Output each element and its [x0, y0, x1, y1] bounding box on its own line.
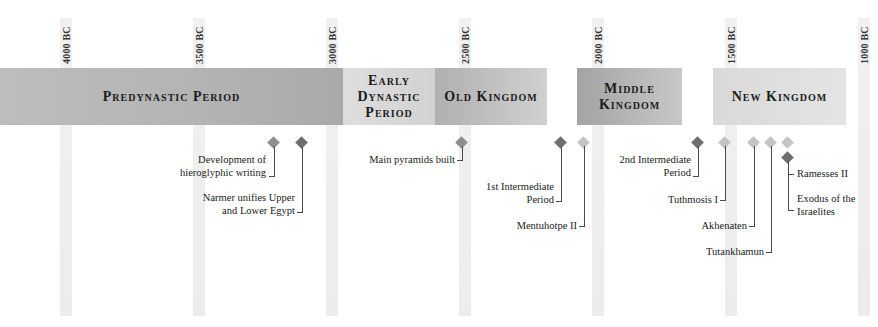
period-label: Predynastic Period: [103, 89, 241, 105]
event-connector-tick: [788, 210, 794, 211]
year-label-1500bc: 1500 BC: [724, 18, 738, 64]
event-label: Development of hieroglyphic writing: [180, 153, 266, 179]
event-connector-tick: [556, 201, 562, 202]
event-label: 2nd Intermediate Period: [620, 153, 691, 179]
event-label: 1st Intermediate Period: [486, 180, 554, 206]
year-label-3000bc: 3000 BC: [325, 18, 339, 64]
period-old-kingdom: Old Kingdom: [435, 68, 547, 125]
event-label: Tutankhamun: [706, 245, 764, 258]
event-label: Main pyramids built: [369, 153, 455, 166]
event-connector-tick: [693, 176, 699, 177]
event-connector: [754, 146, 755, 226]
event-connector-tick: [720, 200, 726, 201]
year-label-4000bc: 4000 BC: [59, 18, 73, 64]
period-label: Middle Kingdom: [599, 81, 660, 113]
event-label-line: Exodus of the: [797, 193, 855, 204]
event-label: Ramesses II: [797, 167, 848, 180]
event-connector-tick: [749, 226, 755, 227]
event-label-line: Israelites: [797, 206, 835, 217]
event-connector-tick: [269, 176, 275, 177]
year-label-2500bc: 2500 BC: [458, 18, 472, 64]
event-marker-diamond-icon: [781, 136, 794, 149]
event-label: Akhenaten: [702, 219, 747, 232]
event-connector: [462, 146, 463, 160]
event-connector: [584, 146, 585, 226]
period-middle-kingdom: Middle Kingdom: [577, 68, 682, 125]
event-connector: [274, 146, 275, 176]
period-label: New Kingdom: [732, 89, 828, 105]
period-label-line: Middle: [604, 81, 655, 96]
event-label-line: Development of: [198, 154, 266, 165]
event-label-line: 2nd Intermediate: [620, 154, 691, 165]
event-label-line: Period: [527, 194, 554, 205]
period-new-kingdom: New Kingdom: [713, 68, 846, 125]
event-label-line: Tutankhamun: [706, 246, 764, 257]
event-label-line: Main pyramids built: [369, 154, 455, 165]
event-label-line: hieroglyphic writing: [180, 167, 266, 178]
event-connector: [698, 146, 699, 176]
period-early-dynastic: Early Dynastic Period: [343, 68, 435, 125]
period-label-line: Kingdom: [599, 97, 660, 112]
period-predynastic: Predynastic Period: [0, 68, 343, 125]
event-label: Exodus of the Israelites: [797, 192, 855, 218]
event-connector: [788, 161, 789, 210]
event-label: Tuthmosis I: [668, 193, 718, 206]
event-label-line: Akhenaten: [702, 220, 747, 231]
event-connector: [561, 146, 562, 201]
year-label-3500bc: 3500 BC: [192, 18, 206, 64]
event-connector-tick: [579, 226, 585, 227]
event-label-line: Tuthmosis I: [668, 194, 718, 205]
event-label-line: Narmer unifies Upper: [203, 192, 295, 203]
period-label-line: Early: [368, 73, 410, 88]
event-connector: [302, 146, 303, 212]
event-label: Mentuhotpe II: [517, 219, 577, 232]
year-label-2000bc: 2000 BC: [591, 18, 605, 64]
event-connector-tick: [766, 252, 772, 253]
period-label-line: Dynastic: [357, 89, 420, 104]
event-label-line: Period: [664, 167, 691, 178]
period-label: Old Kingdom: [444, 89, 538, 105]
period-label: Early Dynastic Period: [357, 73, 420, 121]
event-connector-tick: [457, 160, 463, 161]
event-label-line: Ramesses II: [797, 168, 848, 179]
event-connector-tick: [788, 174, 794, 175]
event-connector: [771, 146, 772, 252]
period-label-line: Period: [365, 105, 412, 120]
event-label-line: and Lower Egypt: [222, 205, 295, 216]
event-connector: [725, 146, 726, 200]
event-connector-tick: [297, 212, 303, 213]
event-label-line: 1st Intermediate: [486, 181, 554, 192]
year-label-1000bc: 1000 BC: [857, 18, 871, 64]
event-label-line: Mentuhotpe II: [517, 220, 577, 231]
event-label: Narmer unifies Upper and Lower Egypt: [203, 191, 295, 217]
